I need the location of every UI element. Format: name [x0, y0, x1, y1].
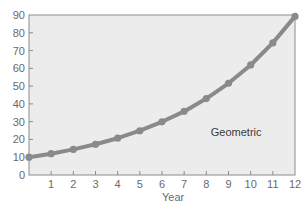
- data-point: [181, 108, 188, 115]
- y-tick-label: 20: [13, 133, 25, 145]
- x-tick-label: 3: [92, 178, 98, 190]
- y-tick-label: 70: [13, 45, 25, 57]
- x-tick-label: 9: [225, 178, 231, 190]
- y-tick-label: 90: [13, 9, 25, 21]
- geometric-growth-chart: 0102030405060708090 123456789101112 Geom…: [0, 0, 303, 204]
- x-tick-label: 2: [70, 178, 76, 190]
- x-tick-label: 1: [48, 178, 54, 190]
- y-tick-label: 10: [13, 151, 25, 163]
- x-tick-label: 6: [159, 178, 165, 190]
- y-tick-label: 60: [13, 62, 25, 74]
- data-point: [225, 80, 232, 87]
- x-tick-label: 8: [203, 178, 209, 190]
- y-tick-label: 30: [13, 116, 25, 128]
- y-tick-label: 50: [13, 80, 25, 92]
- data-point: [25, 154, 32, 161]
- x-axis-title: Year: [162, 191, 185, 203]
- data-point: [70, 146, 77, 153]
- data-point: [114, 135, 121, 142]
- x-tick-label: 12: [289, 178, 301, 190]
- y-tick-label: 0: [19, 169, 25, 181]
- data-point: [48, 150, 55, 157]
- data-point: [158, 118, 165, 125]
- data-point: [291, 13, 298, 20]
- data-point: [203, 95, 210, 102]
- data-point: [269, 39, 276, 46]
- x-tick-label: 5: [137, 178, 143, 190]
- x-tick-label: 7: [181, 178, 187, 190]
- data-point: [136, 127, 143, 134]
- y-tick-label: 80: [13, 27, 25, 39]
- x-tick-label: 10: [245, 178, 257, 190]
- y-tick-label: 40: [13, 98, 25, 110]
- data-point: [247, 61, 254, 68]
- x-tick-label: 4: [115, 178, 121, 190]
- data-point: [92, 141, 99, 148]
- x-tick-label: 11: [267, 178, 278, 190]
- annotation-label: Geometric: [211, 126, 262, 138]
